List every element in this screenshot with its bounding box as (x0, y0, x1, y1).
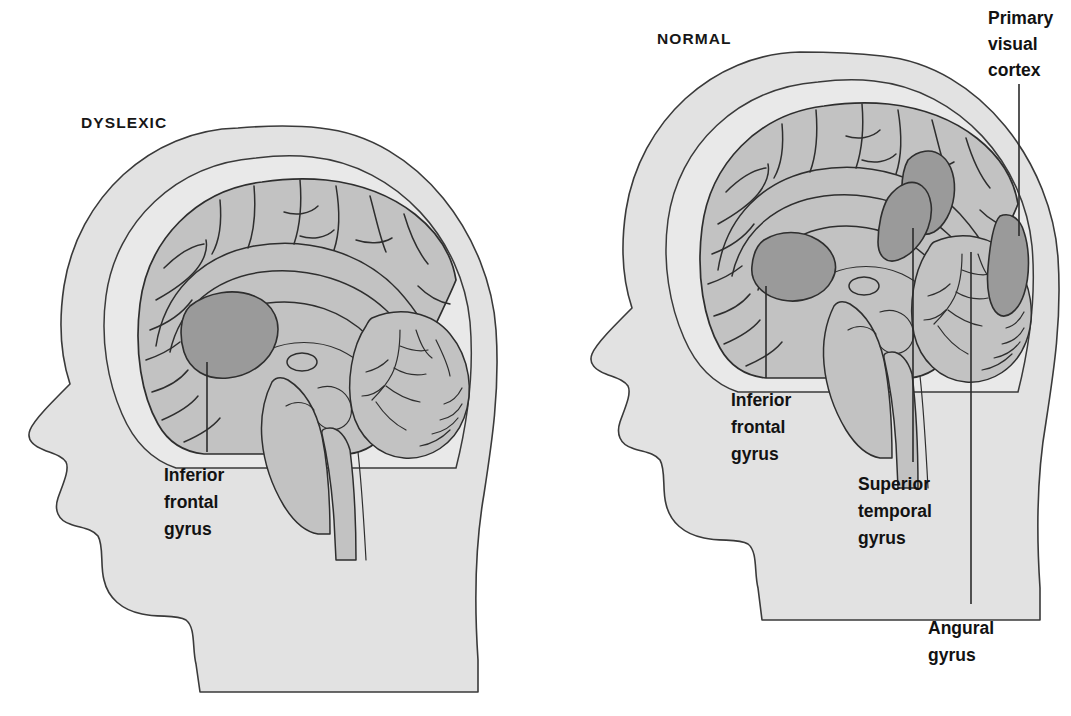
panel-heading-normal: NORMAL (657, 30, 732, 47)
label-pvc-right-line2: visual (988, 34, 1038, 54)
label-ifg-right-line2: frontal (731, 417, 785, 437)
highlight-inferior-frontal-gyrus-right (752, 233, 836, 302)
label-ifg-left-line1: Inferior (164, 465, 224, 485)
brain-comparison-figure: DYSLEXIC Inferior frontal gyrus (0, 0, 1071, 716)
massa-intermedia-left (287, 353, 317, 371)
label-ang-right-line1: Angural (928, 618, 994, 638)
panel-normal: NORMAL Inferior frontal gyrus Superior t… (591, 8, 1059, 665)
label-pvc-right-line3: cortex (988, 60, 1041, 80)
label-stg-right-line3: gyrus (858, 528, 906, 548)
label-ang-right-line2: gyrus (928, 645, 976, 665)
label-ifg-right-line3: gyrus (731, 444, 779, 464)
label-pvc-right-line1: Primary (988, 8, 1053, 28)
panel-heading-dyslexic: DYSLEXIC (81, 114, 167, 131)
label-ifg-left-line2: frontal (164, 492, 218, 512)
panel-dyslexic: DYSLEXIC Inferior frontal gyrus (29, 114, 497, 692)
label-stg-right-line2: temporal (858, 501, 932, 521)
massa-intermedia-right (849, 277, 879, 295)
label-ifg-left-line3: gyrus (164, 519, 212, 539)
label-stg-right-line1: Superior (858, 474, 930, 494)
figure-canvas: DYSLEXIC Inferior frontal gyrus (0, 0, 1071, 716)
label-ifg-right-line1: Inferior (731, 390, 791, 410)
